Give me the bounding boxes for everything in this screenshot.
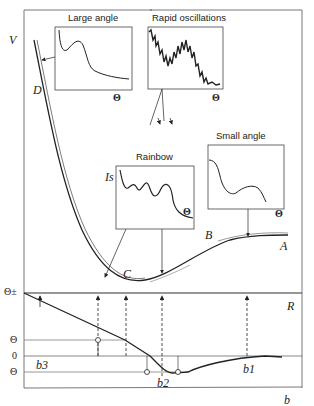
inset-title-small-angle: Small angle (216, 130, 266, 141)
r-label: R (287, 299, 294, 314)
rainbow-point-3 (176, 370, 181, 375)
theta-neg-label: Θ (10, 366, 17, 377)
inset-small-angle (208, 145, 284, 209)
v-axis-label: V (9, 33, 16, 48)
inset-title-rapid-oscillations: Rapid oscillations (152, 12, 226, 23)
diagram-canvas (0, 0, 314, 406)
curve-label-c: C (123, 267, 131, 282)
b-axis-label: b (284, 393, 290, 406)
theta-gridlines (24, 293, 302, 372)
rainbow-point-1 (96, 338, 101, 343)
rainbow-point-2 (145, 370, 150, 375)
zero-label: 0 (12, 350, 17, 361)
theta-label: Θ (10, 334, 17, 345)
inset-rapid-oscillations (148, 27, 223, 89)
deflection-curve (24, 293, 282, 373)
inset-rainbow (116, 166, 194, 229)
b2-label: b2 (157, 376, 169, 391)
inset-xlabel-rainbow: Θ (183, 206, 191, 217)
curve-label-b: B (205, 228, 212, 243)
b1-label: b1 (243, 362, 255, 377)
inset-large-angle (55, 27, 132, 90)
inset-xlabel-small-angle: Θ (275, 208, 283, 219)
theta-pm-label: Θ± (4, 286, 17, 297)
inset-xlabel-rapid: Θ (212, 92, 220, 103)
inset-ylabel-rainbow: Is (105, 170, 114, 185)
inset-title-rainbow: Rainbow (136, 151, 173, 162)
inset-title-large-angle: Large angle (68, 12, 118, 23)
curve-label-d: D (33, 83, 42, 98)
inset-xlabel-large-angle: Θ (113, 92, 121, 103)
curve-label-a: A (280, 239, 287, 254)
b3-label: b3 (36, 358, 48, 373)
